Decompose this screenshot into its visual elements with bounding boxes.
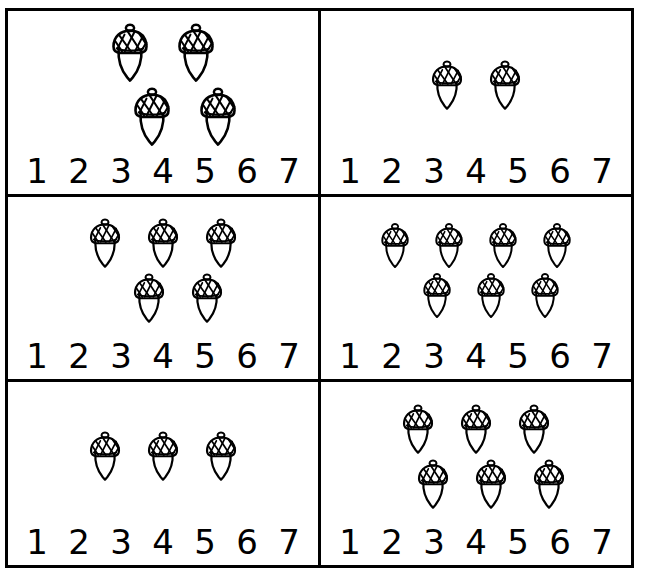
number-choice-2[interactable]: 2 bbox=[377, 339, 407, 373]
worksheet-cell-2[interactable]: 1234567 bbox=[321, 11, 631, 194]
number-strip-1: 1234567 bbox=[8, 154, 318, 194]
acorn-icon bbox=[411, 457, 455, 510]
number-choice-5[interactable]: 5 bbox=[503, 525, 533, 559]
worksheet-row-2: 1234567 1234567 bbox=[8, 197, 631, 383]
acorn-icon bbox=[104, 21, 156, 83]
number-choice-6[interactable]: 6 bbox=[545, 154, 575, 188]
number-choice-5[interactable]: 5 bbox=[190, 525, 220, 559]
number-strip-6: 1234567 bbox=[321, 525, 631, 565]
acorn-icon bbox=[170, 21, 222, 83]
acorn-row bbox=[97, 271, 229, 324]
acorn-group-6 bbox=[321, 382, 631, 525]
number-choice-7[interactable]: 7 bbox=[587, 525, 617, 559]
number-choice-6[interactable]: 6 bbox=[545, 339, 575, 373]
number-choice-4[interactable]: 4 bbox=[461, 154, 491, 188]
number-choice-2[interactable]: 2 bbox=[64, 154, 94, 188]
acorn-icon bbox=[537, 221, 577, 269]
acorn-row bbox=[387, 271, 565, 319]
acorn-icon bbox=[185, 271, 229, 324]
number-choice-1[interactable]: 1 bbox=[335, 154, 365, 188]
worksheet-cell-6[interactable]: 1234567 bbox=[321, 382, 631, 565]
acorn-icon bbox=[199, 216, 243, 269]
number-choice-4[interactable]: 4 bbox=[461, 525, 491, 559]
worksheet-row-3: 1234567 1234567 bbox=[8, 382, 631, 565]
acorn-icon bbox=[396, 402, 440, 455]
acorn-icon bbox=[192, 85, 244, 147]
number-choice-2[interactable]: 2 bbox=[64, 525, 94, 559]
number-choice-3[interactable]: 3 bbox=[106, 154, 136, 188]
number-choice-7[interactable]: 7 bbox=[274, 525, 304, 559]
acorn-icon bbox=[471, 271, 511, 319]
number-choice-6[interactable]: 6 bbox=[232, 154, 262, 188]
acorn-icon bbox=[83, 216, 127, 269]
worksheet-cell-3[interactable]: 1234567 bbox=[8, 197, 321, 380]
number-choice-6[interactable]: 6 bbox=[232, 525, 262, 559]
worksheet-cell-1[interactable]: 1234567 bbox=[8, 11, 321, 194]
acorn-icon bbox=[83, 429, 127, 482]
number-strip-4: 1234567 bbox=[321, 339, 631, 379]
acorn-icon bbox=[429, 221, 469, 269]
number-choice-4[interactable]: 4 bbox=[461, 339, 491, 373]
number-choice-6[interactable]: 6 bbox=[545, 525, 575, 559]
number-choice-4[interactable]: 4 bbox=[148, 154, 178, 188]
acorn-icon bbox=[375, 221, 415, 269]
acorn-group-3 bbox=[8, 197, 318, 340]
acorn-icon bbox=[483, 58, 527, 111]
acorn-group-2 bbox=[321, 11, 631, 154]
worksheet-row-1: 1234567 1234567 bbox=[8, 11, 631, 197]
acorn-icon bbox=[141, 216, 185, 269]
acorn-row bbox=[375, 221, 577, 269]
number-choice-1[interactable]: 1 bbox=[22, 525, 52, 559]
number-choice-4[interactable]: 4 bbox=[148, 525, 178, 559]
number-strip-2: 1234567 bbox=[321, 154, 631, 194]
number-choice-5[interactable]: 5 bbox=[190, 154, 220, 188]
acorn-icon bbox=[525, 271, 565, 319]
acorn-icon bbox=[127, 271, 171, 324]
acorn-icon bbox=[141, 429, 185, 482]
number-strip-3: 1234567 bbox=[8, 339, 318, 379]
acorn-icon bbox=[126, 85, 178, 147]
number-choice-5[interactable]: 5 bbox=[503, 339, 533, 373]
acorn-row bbox=[83, 216, 243, 269]
number-choice-5[interactable]: 5 bbox=[503, 154, 533, 188]
number-choice-6[interactable]: 6 bbox=[232, 339, 262, 373]
acorn-group-5 bbox=[8, 382, 318, 525]
worksheet-cell-5[interactable]: 1234567 bbox=[8, 382, 321, 565]
number-strip-5: 1234567 bbox=[8, 525, 318, 565]
acorn-icon bbox=[425, 58, 469, 111]
acorn-icon bbox=[199, 429, 243, 482]
acorn-icon bbox=[454, 402, 498, 455]
number-choice-3[interactable]: 3 bbox=[106, 525, 136, 559]
acorn-icon bbox=[469, 457, 513, 510]
acorn-icon bbox=[527, 457, 571, 510]
acorn-row bbox=[425, 58, 527, 111]
number-choice-1[interactable]: 1 bbox=[335, 525, 365, 559]
number-choice-3[interactable]: 3 bbox=[106, 339, 136, 373]
number-choice-4[interactable]: 4 bbox=[148, 339, 178, 373]
number-choice-5[interactable]: 5 bbox=[190, 339, 220, 373]
acorn-group-1 bbox=[8, 11, 318, 154]
number-choice-7[interactable]: 7 bbox=[587, 339, 617, 373]
number-choice-7[interactable]: 7 bbox=[274, 339, 304, 373]
acorn-row bbox=[381, 457, 571, 510]
acorn-row bbox=[82, 85, 244, 147]
number-choice-7[interactable]: 7 bbox=[274, 154, 304, 188]
acorn-icon bbox=[512, 402, 556, 455]
acorn-group-4 bbox=[321, 197, 631, 340]
number-choice-2[interactable]: 2 bbox=[377, 154, 407, 188]
number-choice-1[interactable]: 1 bbox=[22, 154, 52, 188]
acorn-icon bbox=[417, 271, 457, 319]
number-choice-3[interactable]: 3 bbox=[419, 339, 449, 373]
number-choice-1[interactable]: 1 bbox=[335, 339, 365, 373]
acorn-row bbox=[83, 429, 243, 482]
counting-worksheet: 1234567 1234567 1234567 1234567 1234567 … bbox=[5, 8, 634, 568]
number-choice-2[interactable]: 2 bbox=[377, 525, 407, 559]
worksheet-cell-4[interactable]: 1234567 bbox=[321, 197, 631, 380]
number-choice-2[interactable]: 2 bbox=[64, 339, 94, 373]
acorn-row bbox=[104, 21, 222, 83]
number-choice-3[interactable]: 3 bbox=[419, 525, 449, 559]
acorn-row bbox=[396, 402, 556, 455]
number-choice-1[interactable]: 1 bbox=[22, 339, 52, 373]
number-choice-3[interactable]: 3 bbox=[419, 154, 449, 188]
number-choice-7[interactable]: 7 bbox=[587, 154, 617, 188]
